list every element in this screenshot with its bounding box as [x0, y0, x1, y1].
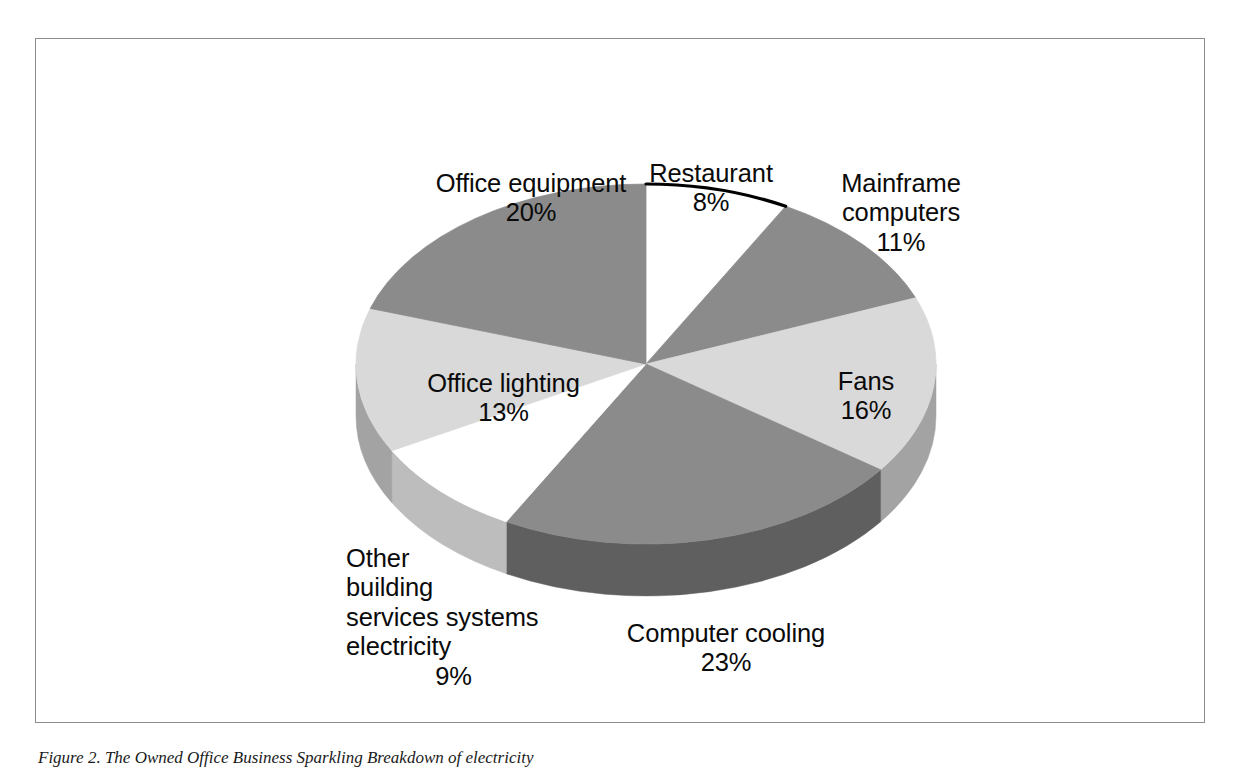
pie-label-fans-name: Fans — [838, 367, 894, 395]
pie-label-office-lighting-name: Office lighting — [427, 369, 580, 397]
pie-label-office-equipment-name: Office equipment — [436, 169, 627, 197]
pie-label-restaurant-value: 8% — [606, 188, 816, 218]
figure-frame: Office equipment 20% Restaurant 8% Mainf… — [35, 38, 1205, 723]
pie-label-restaurant-name: Restaurant — [649, 159, 773, 187]
pie-label-other-building-services: Other building services systems electric… — [346, 514, 616, 721]
pie-label-mainframe-computers-name: Mainframe computers — [841, 169, 961, 227]
figure-caption: Figure 2. The Owned Office Business Spar… — [38, 748, 1138, 767]
pie-label-mainframe-computers-value: 11% — [786, 228, 1016, 258]
pie-label-office-lighting-value: 13% — [371, 398, 636, 428]
pie-label-office-lighting: Office lighting 13% — [371, 339, 636, 457]
pie-label-other-building-services-value: 9% — [346, 662, 561, 692]
pie-label-restaurant: Restaurant 8% — [606, 129, 816, 247]
pie-label-fans: Fans 16% — [791, 337, 941, 455]
pie-label-other-building-services-name: Other building services systems electric… — [346, 544, 539, 661]
pie-label-fans-value: 16% — [791, 396, 941, 426]
pie-label-mainframe-computers: Mainframe computers 11% — [786, 139, 1016, 287]
pie-chart: Office equipment 20% Restaurant 8% Mainf… — [36, 39, 1206, 724]
pie-label-computer-cooling-name: Computer cooling — [627, 619, 825, 647]
